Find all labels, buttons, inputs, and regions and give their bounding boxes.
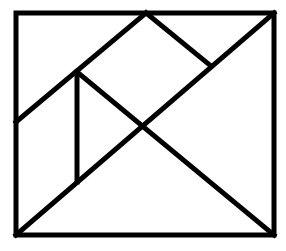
apex-to-main-diagonal xyxy=(146,13,211,66)
tangram-diagram xyxy=(0,0,286,251)
upper-left-diagonal xyxy=(16,13,146,122)
inner-segments xyxy=(16,13,274,235)
